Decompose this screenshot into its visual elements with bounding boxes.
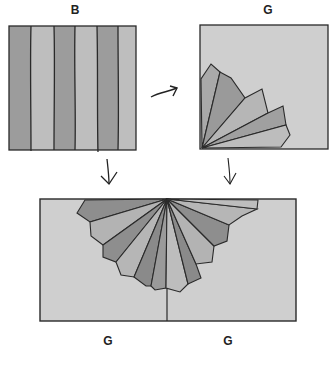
- label-g-bottom-left: G: [103, 334, 112, 348]
- curved-arrow-icon: [151, 86, 177, 97]
- panel-b: [9, 26, 136, 152]
- fold-diagram: B G: [0, 0, 330, 368]
- down-arrow-icon: [101, 159, 117, 184]
- label-b: B: [71, 3, 80, 17]
- panel-bottom: [40, 199, 296, 321]
- panel-g-top: [200, 25, 328, 149]
- label-g-bottom-right: G: [223, 334, 232, 348]
- down-arrow-icon: [224, 158, 236, 184]
- label-g-top: G: [263, 3, 272, 17]
